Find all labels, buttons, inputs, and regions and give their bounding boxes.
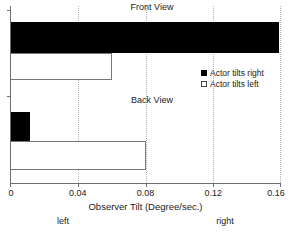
bar-back-view-tilts-left — [10, 141, 146, 170]
group-label-back-view: Back View — [112, 95, 192, 105]
x-axis-tick-016 — [280, 183, 281, 187]
group-label-front-view: Front View — [112, 2, 192, 12]
x-tick-label-012: 0.12 — [204, 188, 222, 198]
bar-chart: Front View Back View 0 0.04 0.08 0.12 0.… — [0, 0, 291, 234]
x-tick-label-016: 0.16 — [267, 188, 285, 198]
y-axis-line — [10, 6, 11, 183]
x-tick-label-008: 0.08 — [137, 188, 155, 198]
x-axis-tick-004 — [78, 183, 79, 187]
legend-item-actor-tilts-right: Actor tilts right — [201, 69, 264, 78]
bar-front-view-tilts-right — [10, 22, 279, 53]
open-square-icon — [201, 81, 207, 87]
legend-label: Actor tilts right — [210, 69, 264, 78]
x-axis-tick-012 — [213, 183, 214, 187]
annotation-left: left — [57, 216, 69, 226]
gridline-016 — [280, 6, 281, 183]
legend-item-actor-tilts-left: Actor tilts left — [201, 80, 264, 89]
x-tick-label-004: 0.04 — [69, 188, 87, 198]
x-axis-tick-008 — [146, 183, 147, 187]
filled-square-icon — [201, 70, 207, 76]
legend-label: Actor tilts left — [210, 80, 259, 89]
y-axis-tick-top — [7, 10, 11, 11]
x-tick-label-0: 0 — [8, 188, 13, 198]
x-axis-title: Observer Tilt (Degree/sec.) — [0, 201, 291, 212]
y-axis-tick-mid — [7, 96, 11, 97]
x-axis-tick-0 — [10, 183, 11, 187]
bar-front-view-tilts-left — [10, 53, 112, 80]
bar-back-view-tilts-right — [10, 112, 30, 141]
annotation-right: right — [216, 216, 234, 226]
legend: Actor tilts right Actor tilts left — [201, 69, 264, 88]
